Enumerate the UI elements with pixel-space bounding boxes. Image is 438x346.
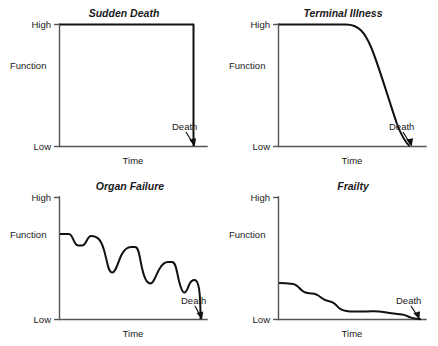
death-annotation-label: Death <box>181 295 206 306</box>
chart-panel-sudden-death: Sudden Death High Low Function Time Deat… <box>0 0 219 173</box>
y-axis-label: Function <box>10 229 46 240</box>
y-tick-label-high: High <box>31 19 51 30</box>
y-tick-label-high: High <box>250 192 270 203</box>
y-tick-label-low: Low <box>34 314 52 325</box>
chart-panel-terminal-illness: Terminal Illness High Low Function Time … <box>219 0 438 173</box>
death-annotation-label: Death <box>389 121 414 132</box>
chart-panel-organ-failure: Organ Failure High Low Function Time Dea… <box>0 173 219 346</box>
trajectory-line-organ-failure <box>60 234 201 319</box>
x-axis-label: Time <box>123 155 144 166</box>
panel-title-terminal-illness: Terminal Illness <box>304 7 383 19</box>
y-axis-label: Function <box>10 60 46 71</box>
x-axis-label: Time <box>123 328 144 339</box>
panel-title-frailty: Frailty <box>337 180 370 192</box>
death-annotation-label: Death <box>172 121 197 132</box>
panel-title-sudden-death: Sudden Death <box>89 7 160 19</box>
y-axis-label: Function <box>229 229 265 240</box>
illness-trajectories-figure: Sudden Death High Low Function Time Deat… <box>0 0 438 346</box>
chart-panel-frailty: Frailty High Low Function Time Death <box>219 173 438 346</box>
x-axis-label: Time <box>342 155 363 166</box>
y-tick-label-low: Low <box>34 141 52 152</box>
y-tick-label-low: Low <box>253 141 271 152</box>
y-tick-label-high: High <box>31 192 51 203</box>
y-axis-label: Function <box>229 60 265 71</box>
y-tick-label-high: High <box>250 19 270 30</box>
x-axis-label: Time <box>342 328 363 339</box>
y-tick-label-low: Low <box>253 314 271 325</box>
death-annotation-label: Death <box>396 295 421 306</box>
panel-title-organ-failure: Organ Failure <box>96 180 164 192</box>
